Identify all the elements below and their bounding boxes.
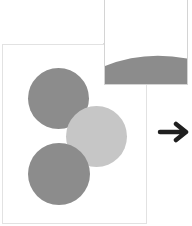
magnified-arc — [105, 0, 188, 85]
arrow-right-icon — [157, 121, 191, 143]
bottom-circle — [28, 143, 90, 205]
magnified-callout — [104, 0, 188, 85]
